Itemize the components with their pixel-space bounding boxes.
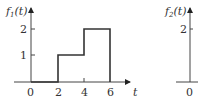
graph-f1: 2 1 0 2 4 6 t f1(t) [5,5,138,99]
x-tick-label-0: 0 [186,86,193,99]
y-axis-label-f2: f2(t) [164,5,187,19]
x-tick-label-6: 6 [107,86,114,99]
y-tick-label-2: 2 [20,23,27,36]
x-tick-label-2: 2 [55,86,62,99]
x-tick-label-0: 0 [27,86,34,99]
graph-f2: 2 0 f2(t) [164,5,198,99]
y-tick-label-1: 1 [20,49,27,62]
waveform-f1 [31,29,110,82]
x-tick-label-4: 4 [81,86,88,99]
y-tick-label-2: 2 [180,23,187,36]
x-axis-label: t [133,86,138,99]
y-axis-label-f1: f1(t) [5,5,28,19]
signal-diagram: 2 1 0 2 4 6 t f1(t) 2 0 f2(t) [0,0,198,108]
